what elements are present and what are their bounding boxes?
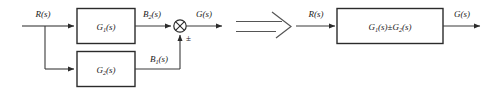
label-b1: B1(s)	[150, 54, 168, 65]
block-g2-label: G2(s)	[96, 65, 115, 76]
comb-t2-tail: (s)	[402, 22, 412, 32]
label-output-g-right: G(s)	[454, 9, 470, 19]
block-g1-label: G1(s)	[96, 22, 115, 33]
block-diagram-figure: R(s) G1(s) G2(s) B2(s) B1(s) ± G(s)	[0, 0, 495, 93]
comb-t1-tail: (s)	[378, 22, 388, 32]
label-input-r-right: R(s)	[308, 9, 324, 19]
implication-arrow-head	[272, 12, 291, 38]
g2-tail: (s)	[106, 65, 116, 75]
label-output-g-left: G(s)	[196, 9, 212, 19]
g1-tail: (s)	[106, 22, 116, 32]
double-line-implication-arrow	[236, 12, 291, 38]
b2-tail: (s)	[152, 9, 162, 19]
label-b2: B2(s)	[143, 9, 161, 20]
block-combined-label: G1(s)±G2(s)	[368, 22, 411, 33]
left-diagram: R(s) G1(s) G2(s) B2(s) B1(s) ± G(s)	[22, 9, 222, 87]
b1-tail: (s)	[159, 54, 169, 64]
label-plus-minus-sign: ±	[186, 33, 191, 43]
label-input-r: R(s)	[35, 9, 51, 19]
summing-junction	[174, 20, 186, 32]
right-diagram: R(s) G1(s)±G2(s) G(s)	[296, 9, 480, 44]
